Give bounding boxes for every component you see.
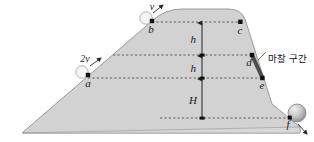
- point-label-c: c: [238, 24, 243, 36]
- incline-diagram-svg: h h H v 2v a b c d e f 마찰 구간: [0, 0, 314, 142]
- dimension-tick-118: [200, 117, 205, 120]
- friction-zone-label: 마찰 구간: [268, 53, 307, 64]
- diagram-canvas: h h H v 2v a b c d e f 마찰 구간: [0, 0, 314, 142]
- velocity-label-b: v: [150, 1, 155, 12]
- dimension-tick-78: [200, 77, 205, 80]
- friction-zone-leader: [258, 52, 266, 60]
- point-label-a: a: [85, 77, 91, 89]
- dimension-tick-55: [200, 54, 205, 57]
- dimension-label-H-bottom: H: [188, 94, 198, 106]
- velocity-arrow-a: [90, 58, 101, 66]
- dimension-label-h-top: h: [191, 33, 197, 45]
- point-label-e: e: [260, 79, 265, 91]
- velocity-label-a: 2v: [80, 53, 90, 64]
- point-label-b: b: [148, 23, 154, 35]
- velocity-arrow-b: [153, 5, 163, 13]
- dimension-label-h-middle: h: [191, 62, 197, 74]
- point-label-d: d: [246, 56, 252, 68]
